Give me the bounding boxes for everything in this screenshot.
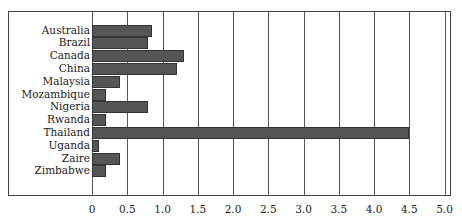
category-label: Brazil bbox=[59, 37, 90, 48]
x-tick-label: 3.0 bbox=[295, 203, 312, 215]
x-tick-label: 1.0 bbox=[154, 203, 171, 215]
category-label: Zimbabwe bbox=[34, 165, 90, 176]
bar-nigeria bbox=[92, 101, 148, 113]
bar-australia bbox=[92, 25, 152, 37]
category-label: Mozambique bbox=[21, 89, 90, 100]
category-label: Australia bbox=[42, 25, 90, 36]
gridline bbox=[268, 11, 269, 196]
bar-zimbabwe bbox=[92, 165, 106, 177]
x-tick-label: 4.5 bbox=[401, 203, 418, 215]
category-label: Canada bbox=[50, 50, 90, 61]
x-tick-label: 0.5 bbox=[119, 203, 136, 215]
category-label: Thailand bbox=[44, 127, 91, 138]
x-tick-label: 5.0 bbox=[436, 203, 453, 215]
category-label: Uganda bbox=[48, 140, 90, 151]
bar-malaysia bbox=[92, 76, 120, 88]
category-label: Zaire bbox=[62, 153, 90, 164]
category-label: Rwanda bbox=[47, 114, 90, 125]
gridline bbox=[304, 11, 305, 196]
gridline bbox=[445, 11, 446, 196]
category-label: Nigeria bbox=[50, 101, 90, 112]
bar-zaire bbox=[92, 153, 120, 165]
bar-thailand bbox=[92, 127, 409, 139]
category-label: China bbox=[59, 63, 90, 74]
bar-uganda bbox=[92, 140, 99, 152]
gridline bbox=[409, 11, 410, 196]
x-tick-label: 3.5 bbox=[330, 203, 347, 215]
bar-chart: AustraliaBrazilCanadaChinaMalaysiaMozamb… bbox=[0, 0, 462, 219]
x-tick-label: 2.0 bbox=[225, 203, 242, 215]
category-label: Malaysia bbox=[42, 76, 90, 87]
gridline bbox=[374, 11, 375, 196]
bar-brazil bbox=[92, 37, 148, 49]
bar-rwanda bbox=[92, 114, 106, 126]
bar-mozambique bbox=[92, 89, 106, 101]
x-tick-label: 1.5 bbox=[189, 203, 206, 215]
x-tick-label: 4.0 bbox=[366, 203, 383, 215]
gridline bbox=[339, 11, 340, 196]
x-tick-label: 0 bbox=[89, 203, 96, 215]
gridline bbox=[198, 11, 199, 196]
x-tick-label: 2.5 bbox=[260, 203, 277, 215]
bar-canada bbox=[92, 50, 184, 62]
bar-china bbox=[92, 63, 177, 75]
gridline bbox=[233, 11, 234, 196]
gridline bbox=[163, 11, 164, 196]
